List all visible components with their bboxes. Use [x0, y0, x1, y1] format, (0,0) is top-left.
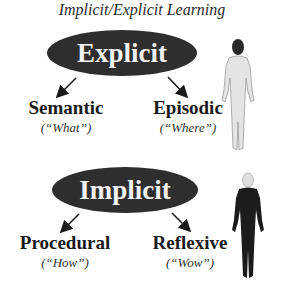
implicit-ellipse: Implicit — [52, 167, 198, 213]
explicit-label: Explicit — [47, 30, 197, 76]
arrow-to-episodic — [168, 77, 186, 96]
procedural-sub: (“How”) — [10, 255, 120, 271]
arrow-to-semantic — [58, 78, 76, 96]
reflexive-sub: (“Wow”) — [140, 255, 240, 271]
reflexive-label: Reflexive — [140, 232, 240, 254]
implicit-label: Implicit — [52, 167, 198, 213]
procedural-label: Procedural — [10, 232, 120, 254]
explicit-ellipse: Explicit — [47, 30, 197, 76]
arrow-to-reflexive — [172, 213, 189, 230]
semantic-label: Semantic — [16, 97, 116, 119]
semantic-sub: (“What”) — [16, 120, 116, 136]
arrow-to-procedural — [62, 214, 79, 231]
light-human-figure-icon — [218, 38, 258, 156]
dark-human-figure-icon — [228, 172, 268, 282]
